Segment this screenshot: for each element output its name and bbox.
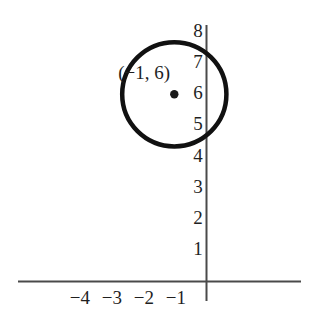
x-tick-label-minus-2: −2 bbox=[134, 288, 155, 307]
x-tick-label-minus-1: −1 bbox=[166, 288, 187, 307]
y-tick-label-1: 1 bbox=[193, 239, 203, 258]
y-tick-label-5: 5 bbox=[193, 114, 203, 133]
y-tick-label-4: 4 bbox=[193, 146, 203, 165]
coordinate-plane-figure: 8 7 6 5 4 3 2 1 −4 −3 −2 −1 (−1, 6) bbox=[0, 0, 323, 326]
y-tick-label-7: 7 bbox=[193, 52, 203, 71]
y-tick-label-6: 6 bbox=[193, 83, 203, 102]
circle-center-point bbox=[170, 90, 178, 98]
x-tick-label-minus-4: −4 bbox=[70, 288, 91, 307]
y-tick-label-8: 8 bbox=[193, 21, 203, 40]
x-tick-label-minus-3: −3 bbox=[102, 288, 123, 307]
y-tick-label-3: 3 bbox=[193, 177, 203, 196]
circle-center-label: (−1, 6) bbox=[118, 63, 170, 82]
y-tick-label-2: 2 bbox=[193, 208, 203, 227]
figure-canvas bbox=[0, 0, 323, 326]
